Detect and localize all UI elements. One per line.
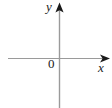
axes-drawing <box>0 0 112 108</box>
x-axis-label: x <box>98 61 104 74</box>
origin-label: 0 <box>48 57 55 70</box>
coordinate-axes-figure: y x 0 <box>0 0 112 108</box>
y-axis-label: y <box>46 0 52 13</box>
